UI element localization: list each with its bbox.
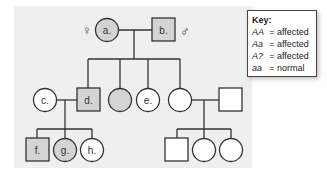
- individual-label: h.: [88, 145, 96, 156]
- individual-label: a.: [103, 25, 111, 36]
- key-row: A? = affected: [252, 50, 312, 62]
- key-title: Key:: [252, 14, 312, 26]
- key-equals: =: [267, 38, 277, 50]
- individual-d: d.: [77, 88, 100, 111]
- individual-unaffected-daughter: [169, 89, 192, 112]
- key-row: AA = affected: [252, 26, 312, 38]
- key-phenotype: normal: [277, 62, 305, 74]
- pedigree-figure: ♀ a. b. ♂ c. d. e.: [0, 0, 327, 174]
- individual-label: b.: [159, 25, 167, 36]
- key-row: Aa = affected: [252, 38, 312, 50]
- individual-spouse-male: [219, 88, 242, 111]
- connector-lines: [37, 30, 231, 139]
- individual-a: a.: [96, 19, 119, 42]
- key-equals: =: [267, 62, 277, 74]
- key-equals: =: [267, 26, 277, 38]
- key-genotype: A?: [252, 50, 267, 62]
- key-row: aa = normal: [252, 62, 312, 74]
- individual-h: h.: [81, 139, 104, 162]
- individual-c: c.: [34, 89, 57, 112]
- male-symbol-icon: ♂: [180, 24, 190, 39]
- individual-label: f.: [35, 145, 41, 156]
- key-genotype: Aa: [252, 38, 267, 50]
- individual-b: b.: [152, 18, 175, 41]
- individual-f: f.: [26, 138, 49, 161]
- female-symbol-icon: ♀: [82, 23, 92, 38]
- individual-granddaughter-2: [220, 139, 243, 162]
- key-phenotype: affected: [277, 38, 309, 50]
- key-phenotype: affected: [277, 26, 309, 38]
- key-phenotype: affected: [277, 50, 309, 62]
- individual-e: e.: [137, 89, 160, 112]
- individual-label: d.: [84, 95, 92, 106]
- key-genotype: aa: [252, 62, 267, 74]
- individual-label: g.: [61, 145, 69, 156]
- key-equals: =: [267, 50, 277, 62]
- individual-label: c.: [41, 95, 49, 106]
- individual-affected-daughter: [109, 89, 132, 112]
- individual-granddaughter-1: [193, 139, 216, 162]
- individual-g: g.: [54, 139, 77, 162]
- individual-label: e.: [144, 95, 152, 106]
- key-genotype: AA: [252, 26, 267, 38]
- key-legend: Key: AA = affected Aa = affected A? = af…: [247, 10, 317, 77]
- individual-grandson: [165, 138, 188, 161]
